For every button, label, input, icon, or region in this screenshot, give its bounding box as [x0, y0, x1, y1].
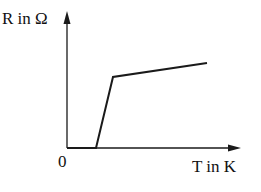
origin-label: 0 [58, 153, 67, 170]
x-axis-arrow-icon [228, 145, 241, 152]
x-axis-label: T in K [192, 158, 236, 175]
y-axis-label: R in Ω [2, 10, 48, 27]
resistance-curve [67, 63, 207, 148]
y-axis-arrow-icon [64, 11, 71, 24]
